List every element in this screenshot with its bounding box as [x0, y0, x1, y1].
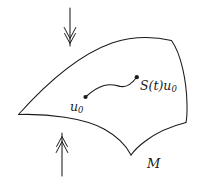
- manifold-bottom-left-edge: [19, 114, 132, 155]
- label-u0-subscript: 0: [78, 105, 83, 115]
- manifold-outline: [19, 38, 188, 155]
- stu0-dot: [135, 75, 139, 79]
- label-u0-base: u: [70, 99, 78, 114]
- u0-dot: [83, 95, 87, 99]
- label-manifold-text: M: [147, 156, 160, 171]
- label-stu0: S(t)u0: [140, 80, 177, 94]
- manifold-bottom-right-edge: [131, 123, 186, 156]
- manifold-top-edge: [19, 38, 172, 115]
- bottom-inflow-arrow: [56, 133, 68, 176]
- label-stu0-subscript: 0: [171, 84, 176, 94]
- top-inflow-arrow: [64, 8, 76, 46]
- label-manifold: M: [147, 157, 160, 170]
- manifold-figure: u0 S(t)u0 M: [0, 0, 198, 180]
- label-u0: u0: [70, 101, 83, 115]
- label-stu0-base: S(t)u: [140, 78, 171, 93]
- trajectory-curve: [86, 78, 137, 98]
